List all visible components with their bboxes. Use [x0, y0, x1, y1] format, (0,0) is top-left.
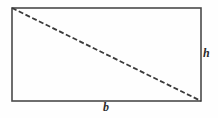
label-height: h	[203, 47, 210, 59]
label-base: b	[103, 101, 109, 113]
geometry-diagram: h b	[0, 0, 218, 118]
diagram-canvas	[0, 0, 218, 118]
diagonal-dashed-line	[12, 8, 201, 101]
